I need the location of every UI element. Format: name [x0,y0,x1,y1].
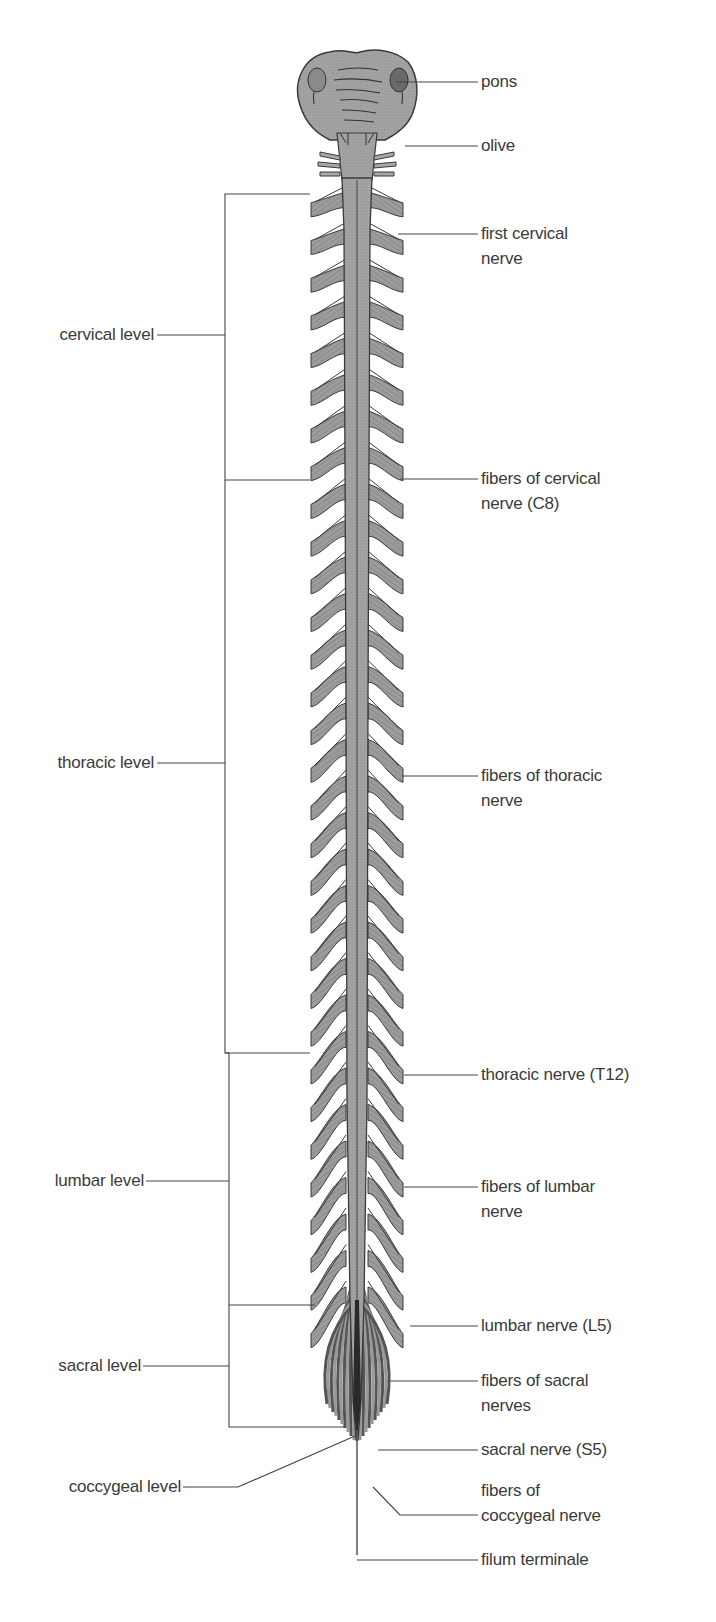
label-line: thoracic nerve (T12) [481,1065,629,1084]
leader-coccygeal [183,1436,355,1487]
spinal-nerve [368,557,403,594]
label-pons: pons [481,69,517,94]
spinal-nerve [368,667,403,707]
label-coccygeal-level: coccygeal level [69,1474,181,1499]
label-lumbar-nerve-l5: lumbar nerve (L5) [481,1313,612,1338]
label-first-cervical-nerve: first cervical nerve [481,221,568,271]
label-fibers-coccygeal: fibers of coccygeal nerve [481,1478,601,1528]
label-line: nerve [481,246,568,271]
spinal-nerve [368,192,403,217]
spinal-nerve [368,594,403,632]
spinal-nerve [311,667,346,707]
spinal-nerve [311,776,346,820]
label-lumbar-level: lumbar level [55,1168,144,1193]
label-line: fibers of cervical [481,466,600,491]
spinal-nerve [368,630,403,669]
label-line: first cervical [481,221,568,246]
spinal-nerve [311,594,346,632]
spinal-nerve [368,521,403,557]
label-fibers-lumbar: fibers of lumbar nerve [481,1174,595,1224]
spinal-nerve [368,375,403,406]
bracket-thoracic [225,480,310,1053]
label-thoracic-nerve-t12: thoracic nerve (T12) [481,1062,629,1087]
bracket-lumbar [225,1053,315,1305]
label-fibers-thoracic: fibers of thoracic nerve [481,763,602,813]
spinal-nerve [311,630,346,669]
label-line: olive [481,136,515,155]
label-fibers-sacral: fibers of sacral nerves [481,1368,588,1418]
label-line: coccygeal nerve [481,1503,601,1528]
label-line: fibers of lumbar [481,1174,595,1199]
label-fibers-cervical-c8: fibers of cervical nerve (C8) [481,466,600,516]
label-line: fibers of thoracic [481,763,602,788]
label-line: nerve [481,788,602,813]
label-sacral-nerve-s5: sacral nerve (S5) [481,1437,607,1462]
spinal-nerve [311,557,346,594]
label-cervical-level: cervical level [59,322,154,347]
label-thoracic-level: thoracic level [58,750,154,775]
label-line: nerve [481,1199,595,1224]
label-line: nerves [481,1393,588,1418]
label-line: fibers of sacral [481,1368,588,1393]
spinal-nerve [311,192,346,217]
label-line: nerve (C8) [481,491,600,516]
label-line: sacral nerve (S5) [481,1440,607,1459]
bracket-cervical [225,194,310,480]
label-line: pons [481,72,517,91]
spinal-nerve [368,776,403,820]
label-sacral-level: sacral level [58,1353,141,1378]
label-filum-terminale: filum terminale [481,1547,589,1572]
spinal-nerve [311,375,346,406]
brainstem [298,50,417,180]
spinal-nerve [311,521,346,557]
label-line: fibers of [481,1478,601,1503]
spinal-nerve [368,338,403,368]
spinal-cord-diagram [0,0,716,1622]
label-olive: olive [481,133,515,158]
spinal-nerve [311,338,346,368]
label-line: filum terminale [481,1550,589,1569]
label-line: lumbar nerve (L5) [481,1316,612,1335]
